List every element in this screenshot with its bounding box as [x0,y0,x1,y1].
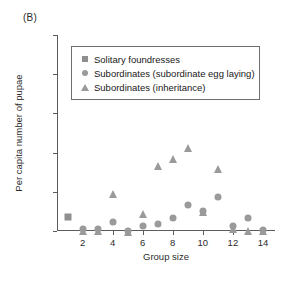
x-tick-label: 8 [163,237,183,248]
data-point-triangle [199,208,207,216]
chart-legend: Solitary foundressesSubordinates (subord… [71,46,260,100]
x-tick [143,231,144,235]
square-marker-icon [79,56,90,62]
x-tick-label: 14 [253,237,273,248]
square-glyph [82,56,88,62]
triangle-marker-icon [79,84,90,91]
data-point-triangle [169,155,177,163]
data-point-triangle [214,165,222,173]
x-tick-label: 2 [73,237,93,248]
data-point-triangle [139,210,147,218]
circle-marker-icon [79,70,90,76]
y-axis-line [57,35,58,231]
triangle-glyph [81,84,89,91]
y-tick [53,192,57,193]
x-tick-label: 10 [193,237,213,248]
legend-item-2: Subordinates (inheritance) [79,80,252,94]
x-tick-label: 12 [223,237,243,248]
data-point-triangle [229,225,237,233]
data-point-triangle [124,228,132,236]
x-tick-label: 4 [103,237,123,248]
data-point-circle [169,215,176,222]
x-tick-label: 6 [133,237,153,248]
data-point-triangle [154,162,162,170]
x-tick [173,231,174,235]
data-point-circle [139,223,146,230]
data-point-triangle [79,227,87,235]
data-point-circle [184,202,191,209]
legend-item-1: Subordinates (subordinate egg laying) [79,66,252,80]
figure-panel-b: (B) 0.00.51.01.52.02.5 2468101214 Per ca… [0,0,308,282]
y-tick [53,231,57,232]
circle-glyph [82,70,88,76]
data-point-triangle [94,227,102,235]
legend-item-0: Solitary foundresses [79,52,252,66]
y-tick [53,35,57,36]
x-tick [203,231,204,235]
y-tick [53,153,57,154]
data-point-circle [109,218,116,225]
x-tick [113,231,114,235]
data-point-triangle [244,227,252,235]
data-point-circle [244,215,251,222]
data-point-triangle [109,190,117,198]
data-point-circle [214,194,221,201]
data-point-triangle [184,144,192,152]
data-point-circle [154,220,161,227]
legend-item-label: Subordinates (subordinate egg laying) [94,68,255,79]
y-axis-title: Per capita number of pupae [13,74,24,191]
data-point-triangle [259,227,267,235]
legend-item-label: Subordinates (inheritance) [94,82,205,93]
y-tick [53,74,57,75]
x-axis-title: Group size [57,251,275,262]
data-point-square [64,213,71,220]
x-axis-line [57,230,275,231]
panel-label: (B) [23,12,37,23]
y-tick [53,113,57,114]
legend-item-label: Solitary foundresses [94,54,180,65]
